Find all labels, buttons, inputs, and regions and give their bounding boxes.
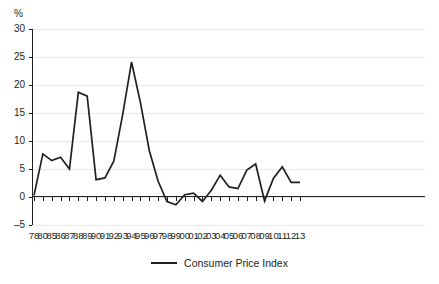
y-tick-mark--5	[29, 225, 32, 226]
x-tick-label-13: 13	[295, 231, 306, 241]
y-tick-label-25: 25	[1, 52, 25, 62]
y-tick-label-5: 5	[1, 164, 25, 174]
legend-line-swatch	[151, 262, 177, 264]
y-tick-label-10: 10	[1, 136, 25, 146]
y-axis-unit-label: %	[14, 8, 23, 19]
y-tick-label-0: 0	[1, 192, 25, 202]
series-line-consumer-price-index	[32, 29, 425, 225]
y-tick-label-20: 20	[1, 80, 25, 90]
plot-area: 302520151050–5 7880858687888990919293949…	[32, 29, 425, 225]
y-tick-label-30: 30	[1, 24, 25, 34]
legend-label-consumer-price-index: Consumer Price Index	[184, 258, 288, 269]
gridline--5	[32, 225, 425, 226]
y-tick-label-15: 15	[1, 108, 25, 118]
y-tick-label--5: –5	[1, 220, 25, 230]
chart-legend: Consumer Price Index	[0, 258, 439, 269]
chart-container: % 302520151050–5 78808586878889909192939…	[0, 0, 439, 284]
